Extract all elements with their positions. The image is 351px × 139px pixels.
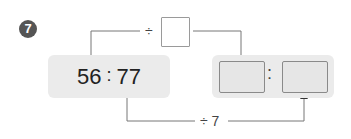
answer-box-first-term[interactable] xyxy=(219,61,265,93)
ratio-second-term: 77 xyxy=(117,64,141,90)
answer-box-second-term[interactable] xyxy=(282,61,328,93)
ratio-colon: : xyxy=(106,65,111,86)
right-ratio-colon: : xyxy=(267,63,272,84)
top-divide-sign: ÷ xyxy=(145,24,153,38)
ratio-first-term: 56 xyxy=(77,64,101,90)
divisor-answer-box[interactable] xyxy=(161,17,190,47)
left-ratio-panel: 56 : 77 xyxy=(48,55,170,98)
bottom-operation-label: ÷ 7 xyxy=(200,114,219,128)
